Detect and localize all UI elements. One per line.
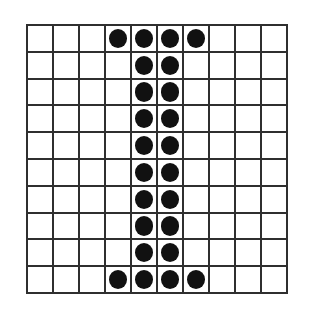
grid-cell-filled bbox=[158, 26, 184, 53]
grid-cell-empty bbox=[184, 240, 210, 267]
grid-cell-empty bbox=[210, 106, 236, 133]
grid-cell-empty bbox=[54, 80, 80, 107]
dot-marker-icon bbox=[135, 270, 153, 289]
grid-row bbox=[28, 80, 288, 107]
dot-marker-icon bbox=[135, 216, 153, 235]
grid-cell-empty bbox=[262, 80, 288, 107]
grid-cell-filled bbox=[106, 267, 132, 294]
grid-row bbox=[28, 106, 288, 133]
grid-cell-empty bbox=[210, 53, 236, 80]
grid-cell-filled bbox=[158, 106, 184, 133]
grid-cell-empty bbox=[80, 187, 106, 214]
grid-cell-filled bbox=[132, 160, 158, 187]
grid-cell-filled bbox=[158, 187, 184, 214]
grid-cell-empty bbox=[28, 267, 54, 294]
grid-cell-empty bbox=[210, 160, 236, 187]
grid-cell-filled bbox=[158, 133, 184, 160]
grid-row bbox=[28, 160, 288, 187]
grid-row bbox=[28, 53, 288, 80]
grid-cell-empty bbox=[184, 80, 210, 107]
grid-cell-empty bbox=[236, 160, 262, 187]
grid-cell-filled bbox=[132, 106, 158, 133]
grid-cell-empty bbox=[262, 133, 288, 160]
dot-marker-icon bbox=[135, 56, 153, 75]
grid-cell-empty bbox=[54, 240, 80, 267]
dot-marker-icon bbox=[161, 29, 179, 48]
dot-marker-icon bbox=[135, 243, 153, 262]
grid-cell-empty bbox=[262, 214, 288, 241]
grid-cell-filled bbox=[158, 53, 184, 80]
grid-cell-empty bbox=[184, 133, 210, 160]
grid-cell-empty bbox=[106, 133, 132, 160]
dot-marker-icon bbox=[161, 136, 179, 155]
grid-cell-empty bbox=[106, 80, 132, 107]
grid-cell-empty bbox=[262, 106, 288, 133]
dot-marker-icon bbox=[161, 270, 179, 289]
grid-cell-empty bbox=[54, 160, 80, 187]
grid-cell-empty bbox=[54, 187, 80, 214]
dot-grid bbox=[26, 24, 288, 294]
grid-cell-empty bbox=[54, 53, 80, 80]
grid-cell-empty bbox=[184, 160, 210, 187]
grid-cell-empty bbox=[210, 240, 236, 267]
grid-cell-filled bbox=[132, 187, 158, 214]
grid-cell-empty bbox=[210, 133, 236, 160]
grid-cell-empty bbox=[80, 53, 106, 80]
grid-cell-filled bbox=[158, 160, 184, 187]
dot-marker-icon bbox=[161, 216, 179, 235]
grid-cell-filled bbox=[132, 26, 158, 53]
grid-cell-empty bbox=[236, 240, 262, 267]
dot-marker-icon bbox=[135, 82, 153, 101]
grid-cell-empty bbox=[262, 267, 288, 294]
grid-cell-empty bbox=[236, 133, 262, 160]
dot-marker-icon bbox=[161, 82, 179, 101]
grid-cell-empty bbox=[106, 187, 132, 214]
grid-cell-empty bbox=[80, 240, 106, 267]
grid-cell-empty bbox=[262, 240, 288, 267]
grid-cell-filled bbox=[106, 26, 132, 53]
grid-cell-empty bbox=[80, 80, 106, 107]
grid-cell-empty bbox=[236, 106, 262, 133]
dot-marker-icon bbox=[161, 190, 179, 209]
dot-marker-icon bbox=[161, 109, 179, 128]
grid-cell-empty bbox=[210, 26, 236, 53]
grid-row bbox=[28, 240, 288, 267]
grid-cell-empty bbox=[236, 187, 262, 214]
grid-cell-empty bbox=[54, 133, 80, 160]
grid-cell-empty bbox=[54, 26, 80, 53]
grid-cell-filled bbox=[158, 214, 184, 241]
dot-marker-icon bbox=[135, 109, 153, 128]
dot-marker-icon bbox=[161, 243, 179, 262]
dot-marker-icon bbox=[135, 136, 153, 155]
grid-cell-empty bbox=[210, 267, 236, 294]
grid-cell-empty bbox=[184, 53, 210, 80]
grid-row bbox=[28, 267, 288, 294]
grid-cell-empty bbox=[28, 106, 54, 133]
dot-marker-icon bbox=[135, 29, 153, 48]
grid-cell-empty bbox=[106, 106, 132, 133]
grid-cell-empty bbox=[28, 53, 54, 80]
grid-cell-filled bbox=[158, 267, 184, 294]
grid-cell-filled bbox=[184, 267, 210, 294]
grid-cell-empty bbox=[106, 53, 132, 80]
grid-cell-empty bbox=[28, 187, 54, 214]
grid-row bbox=[28, 187, 288, 214]
grid-row bbox=[28, 133, 288, 160]
dot-marker-icon bbox=[187, 270, 205, 289]
grid-cell-empty bbox=[262, 160, 288, 187]
grid-row bbox=[28, 26, 288, 53]
grid-cell-filled bbox=[132, 214, 158, 241]
grid-cell-empty bbox=[210, 187, 236, 214]
dot-marker-icon bbox=[161, 56, 179, 75]
grid-cell-empty bbox=[184, 187, 210, 214]
grid-cell-empty bbox=[106, 214, 132, 241]
grid-cell-empty bbox=[80, 160, 106, 187]
grid-row bbox=[28, 214, 288, 241]
dot-marker-icon bbox=[109, 270, 127, 289]
grid-cell-empty bbox=[210, 214, 236, 241]
grid-cell-empty bbox=[80, 106, 106, 133]
grid-cell-empty bbox=[28, 26, 54, 53]
grid-cell-filled bbox=[132, 267, 158, 294]
grid-cell-empty bbox=[184, 214, 210, 241]
grid-cell-empty bbox=[236, 267, 262, 294]
